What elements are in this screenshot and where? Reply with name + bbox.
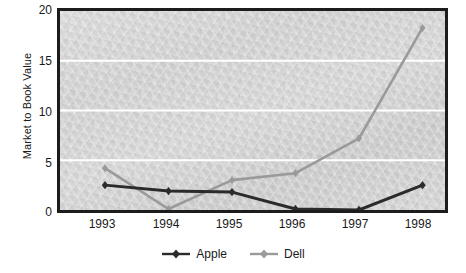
marker-apple-1993 [102, 181, 109, 189]
x-tick-1996: 1996 [262, 218, 322, 230]
legend-item-dell[interactable]: Dell [249, 248, 305, 260]
y-tick-20: 20 [30, 4, 52, 16]
legend-item-apple[interactable]: Apple [161, 248, 227, 260]
marker-apple-1995 [229, 188, 236, 196]
x-tick-1997: 1997 [325, 218, 385, 230]
marker-dell-1996 [292, 169, 298, 177]
plot-area [57, 8, 448, 213]
y-tick-5: 5 [30, 157, 52, 169]
x-tick-1993: 1993 [72, 218, 132, 230]
plot-canvas [60, 11, 445, 210]
series-line-dell [105, 28, 423, 209]
legend-label-dell: Dell [284, 248, 305, 260]
legend-marker-dell-icon [249, 248, 279, 260]
x-axis-tick-labels: 1993 1994 1995 1996 1997 1998 [57, 218, 448, 238]
legend-label-apple: Apple [196, 248, 227, 260]
marker-dell-1995 [229, 176, 235, 184]
y-tick-15: 15 [30, 55, 52, 67]
marker-apple-1998 [419, 181, 426, 189]
chart-root: Market to Book Value 20 15 10 5 0 1993 1… [0, 0, 466, 273]
x-tick-1995: 1995 [199, 218, 259, 230]
marker-apple-1994 [165, 187, 172, 195]
x-tick-1994: 1994 [136, 218, 196, 230]
y-axis-tick-labels: 20 15 10 5 0 [26, 0, 52, 273]
y-tick-0: 0 [30, 206, 52, 218]
x-tick-1998: 1998 [388, 218, 448, 230]
y-tick-10: 10 [30, 106, 52, 118]
chart-legend: Apple Dell [0, 248, 466, 260]
legend-marker-apple-icon [161, 248, 191, 260]
